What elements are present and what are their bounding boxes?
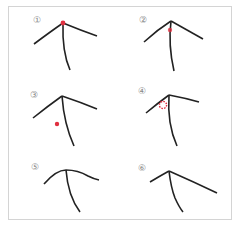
stroke-diagram-4 — [119, 76, 238, 152]
stroke-diagram-3 — [0, 76, 119, 152]
panel-1: ① — [0, 0, 110, 70]
panel-2: ② — [119, 0, 229, 70]
stroke-diagram-2 — [119, 0, 238, 76]
panel-5: ⑤ — [0, 152, 110, 222]
marker-dot — [168, 28, 172, 32]
marker-dot — [61, 21, 66, 26]
panel-4: ④ — [119, 76, 229, 146]
stroke-diagram-1 — [0, 0, 119, 76]
stroke-diagram-6 — [119, 152, 238, 228]
marker-ring — [159, 101, 166, 108]
marker-dot — [55, 122, 59, 126]
stroke-diagram-5 — [0, 152, 119, 228]
panel-3: ③ — [0, 76, 110, 146]
panel-6: ⑥ — [119, 152, 229, 222]
